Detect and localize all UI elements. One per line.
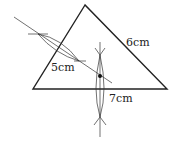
label-base: 7cm — [109, 92, 133, 105]
label-right-side: 6cm — [126, 36, 150, 49]
label-left-side: 5cm — [51, 61, 75, 74]
circumcenter-dot — [98, 74, 102, 78]
construction-diagram: 6cm 5cm 7cm — [0, 0, 172, 147]
base-bisector — [94, 42, 106, 137]
